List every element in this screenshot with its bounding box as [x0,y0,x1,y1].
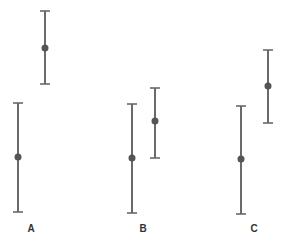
data-point-marker [265,83,272,90]
data-point-marker [152,118,159,125]
error-bar-chart: ABC [0,0,282,242]
data-point-marker [238,156,245,163]
error-bar-c-right [263,50,273,123]
error-bar-a-right [40,11,50,84]
error-bar-b-left [127,104,137,213]
data-point-marker [15,154,22,161]
error-bar-c-left [236,106,246,214]
error-bars [13,11,273,214]
error-bar-b-right [150,88,160,158]
data-point-marker [129,155,136,162]
error-bar-a-left [13,103,23,212]
category-labels: ABC [27,223,257,234]
category-label-c: C [250,223,257,234]
category-label-a: A [27,223,34,234]
category-label-b: B [139,223,146,234]
data-point-marker [42,45,49,52]
